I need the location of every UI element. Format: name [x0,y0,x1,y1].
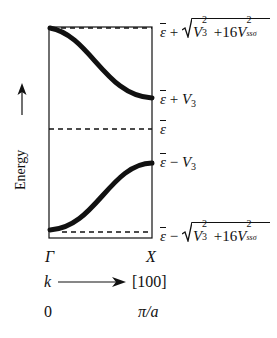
label-bottom-level: ε − V23 +16V2ssσ [160,226,268,244]
label-lower-x-level: ε − V3 [160,155,196,172]
direction-label: [100] [132,274,167,290]
label-middle-level: ε [160,122,166,137]
x-point-label: X [146,249,156,265]
lower-band-curve [50,163,152,230]
energy-axis-label: Energy [14,150,28,190]
label-upper-x-level: ε + V3 [160,92,196,109]
sqrt-icon [182,222,192,242]
plot-frame [49,27,152,238]
gamma-point-label: Γ [45,249,54,265]
upper-band-curve [50,28,152,98]
k-start-label: 0 [44,304,52,320]
sqrt-icon [182,18,192,38]
k-end-label: π/a [138,304,158,320]
label-top-level: ε + V23 +16V2ssσ [160,22,268,40]
k-label: k [44,274,51,290]
